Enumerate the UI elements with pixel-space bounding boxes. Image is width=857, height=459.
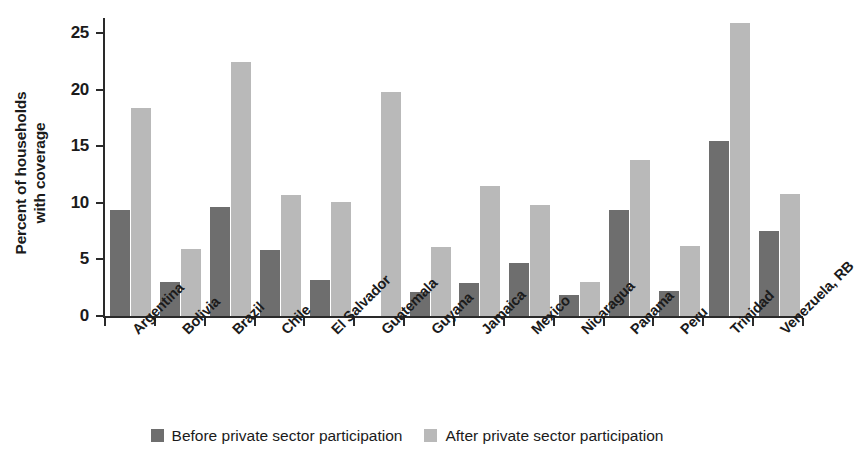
y-axis-tick-label: 15	[43, 137, 89, 154]
y-axis-tick-label: 25	[43, 24, 89, 41]
y-axis-title-line-2: with coverage	[31, 91, 50, 254]
bar-after	[530, 205, 550, 316]
legend-item[interactable]: Before private sector participation	[151, 428, 403, 444]
bar-after	[131, 108, 151, 316]
y-axis-tick	[96, 315, 104, 317]
bar-before	[110, 210, 130, 316]
y-axis-tick	[96, 89, 104, 91]
y-axis-tick-label: 0	[43, 307, 89, 324]
bar-series-group	[105, 18, 803, 318]
y-axis-tick	[96, 145, 104, 147]
bar-after	[780, 194, 800, 316]
plot-area: 0510152025	[103, 18, 803, 318]
y-axis-tick-label: 10	[43, 194, 89, 211]
x-axis-tick	[104, 318, 106, 326]
legend-item[interactable]: After private sector participation	[424, 428, 663, 444]
bar-after	[331, 202, 351, 316]
legend-swatch-icon	[151, 429, 164, 442]
bar-after	[281, 195, 301, 316]
y-axis-title: Percent of households with coverage	[0, 30, 62, 315]
legend-label: Before private sector participation	[172, 428, 403, 444]
y-axis-tick	[96, 202, 104, 204]
legend-label: After private sector participation	[445, 428, 663, 444]
y-axis-tick-label: 20	[43, 81, 89, 98]
bar-after	[480, 186, 500, 316]
y-axis-title-line-1: Percent of households	[12, 91, 31, 254]
bar-before	[310, 280, 330, 316]
bar-after	[231, 62, 251, 316]
y-axis-tick	[96, 258, 104, 260]
y-axis-tick	[96, 32, 104, 34]
bar-after	[730, 23, 750, 316]
legend-swatch-icon	[424, 429, 437, 442]
x-axis-tick-labels: ArgentinaBoliviaBrazilChileEl SalvadorGu…	[103, 326, 814, 421]
bar-before	[709, 141, 729, 316]
y-axis-tick-label: 5	[43, 250, 89, 267]
chart-legend: Before private sector participationAfter…	[0, 428, 814, 444]
